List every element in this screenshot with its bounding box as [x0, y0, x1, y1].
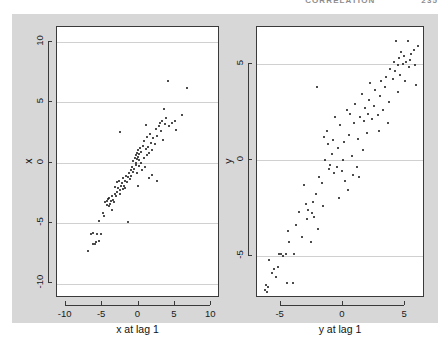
data-point	[348, 134, 350, 136]
data-point	[133, 168, 135, 170]
data-point	[156, 135, 158, 137]
data-point	[377, 114, 379, 116]
data-point	[409, 59, 411, 61]
data-point	[119, 193, 121, 195]
data-point	[121, 182, 123, 184]
data-point	[147, 146, 149, 148]
data-point	[301, 236, 303, 238]
data-point	[122, 177, 124, 179]
data-point	[98, 240, 100, 242]
data-point	[323, 136, 325, 138]
data-point	[139, 147, 141, 149]
data-point	[358, 176, 360, 178]
gridline	[57, 284, 218, 285]
data-point	[356, 166, 358, 168]
data-point	[380, 80, 382, 82]
data-point	[155, 128, 157, 130]
data-point	[87, 250, 89, 252]
data-point	[160, 130, 162, 132]
data-point	[389, 68, 391, 70]
data-point	[130, 175, 132, 177]
data-point	[399, 74, 401, 76]
data-point	[357, 138, 359, 140]
data-point	[403, 55, 405, 57]
header-chapter-title: CORRELATION	[305, 0, 375, 5]
plot-area-right	[257, 27, 423, 296]
data-point	[295, 224, 297, 226]
data-point	[328, 168, 330, 170]
y-axis-tick-label: 5	[234, 55, 245, 69]
data-point	[146, 154, 148, 156]
y-axis-tick	[48, 162, 52, 163]
data-point	[165, 117, 167, 119]
data-point	[113, 201, 115, 203]
data-point	[338, 197, 340, 199]
x-axis-tick	[138, 301, 139, 305]
data-point	[329, 164, 331, 166]
data-point	[379, 95, 381, 97]
data-point	[368, 99, 370, 101]
data-point	[148, 152, 150, 154]
data-point	[332, 139, 334, 141]
x-axis-tick	[210, 301, 211, 305]
data-point	[405, 61, 407, 63]
data-point	[267, 286, 269, 288]
data-point	[115, 195, 117, 197]
x-axis-tick-label: 10	[205, 308, 216, 319]
data-point	[292, 282, 294, 284]
y-axis-tick-label: -5	[34, 214, 45, 228]
data-point	[148, 177, 150, 179]
data-point	[174, 120, 176, 122]
x-axis-tick-label: 0	[339, 308, 344, 319]
data-point	[334, 116, 336, 118]
y-axis-tick-label: -5	[234, 247, 245, 261]
data-point	[362, 149, 364, 151]
data-point	[315, 193, 317, 195]
header-page-number: 235	[421, 0, 438, 5]
data-point	[305, 203, 307, 205]
data-point	[321, 182, 323, 184]
data-point	[293, 253, 295, 255]
data-point	[273, 268, 275, 270]
data-point	[171, 122, 173, 124]
data-point	[336, 166, 338, 168]
y-axis-tick-label: -10	[34, 275, 45, 289]
data-point	[316, 86, 318, 88]
data-point	[342, 159, 344, 161]
data-point	[154, 143, 156, 145]
data-point	[266, 291, 268, 293]
y-axis-tick-label: 10	[34, 33, 45, 47]
data-point	[143, 157, 145, 159]
data-point	[167, 80, 169, 82]
data-point	[175, 129, 177, 131]
data-point	[127, 221, 129, 223]
data-point	[400, 51, 402, 53]
data-point	[397, 91, 399, 93]
data-point	[364, 107, 366, 109]
data-point	[414, 64, 416, 66]
data-point	[303, 184, 305, 186]
x-axis-tick	[280, 301, 281, 305]
data-point	[298, 211, 300, 213]
data-point	[162, 139, 164, 141]
data-point	[366, 132, 368, 134]
data-point	[102, 212, 104, 214]
data-point	[306, 218, 308, 220]
data-point	[349, 113, 351, 115]
data-point	[343, 141, 345, 143]
data-point	[108, 197, 110, 199]
data-point	[285, 253, 287, 255]
data-point	[313, 216, 315, 218]
x-axis-tick-label: -5	[97, 308, 105, 319]
data-point	[333, 172, 335, 174]
x-axis-tick-label: -5	[275, 308, 283, 319]
data-point	[161, 120, 163, 122]
data-point	[369, 82, 371, 84]
y-axis-tick	[48, 222, 52, 223]
data-point	[141, 169, 143, 171]
data-point	[135, 164, 137, 166]
data-point	[145, 148, 147, 150]
page-running-header: CORRELATION 235	[0, 0, 447, 8]
data-point	[140, 162, 142, 164]
x-axis-tick	[101, 301, 102, 305]
